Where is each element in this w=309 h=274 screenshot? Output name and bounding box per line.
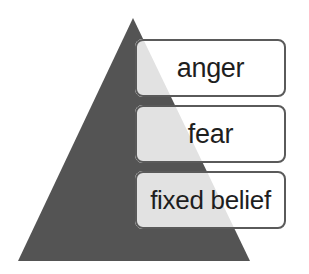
pyramid-level-anger: anger: [135, 39, 286, 97]
pyramid-level-fixed-belief: fixed belief: [135, 171, 286, 229]
pyramid-level-fear: fear: [135, 105, 286, 163]
level-label: fear: [188, 119, 233, 150]
level-label: anger: [177, 53, 245, 84]
pyramid-diagram: anger fear fixed belief: [0, 0, 309, 274]
level-label: fixed belief: [150, 185, 271, 216]
